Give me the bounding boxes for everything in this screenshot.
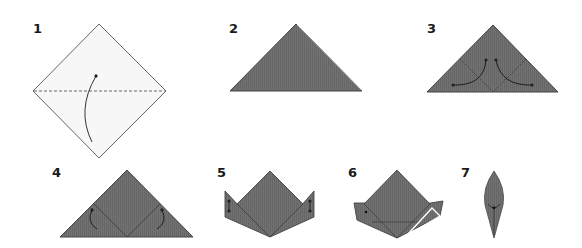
diagram-svg — [0, 0, 582, 248]
step-6-diagram — [354, 170, 443, 238]
step-1-diagram — [33, 24, 166, 158]
step-3-diagram — [427, 25, 558, 92]
fold-dot-icon — [365, 211, 368, 214]
step-4-diagram — [60, 170, 193, 237]
origami-diagram: 1 2 3 4 5 6 7 — [0, 0, 582, 248]
step-7-diagram — [484, 171, 503, 238]
triangle-with-creases — [427, 25, 558, 92]
triangle-with-flaps — [60, 170, 193, 237]
leaf-center-dot-icon — [493, 207, 496, 210]
folded-triangle — [230, 24, 362, 91]
step-2-diagram — [230, 24, 362, 91]
step-5-diagram — [225, 171, 314, 237]
